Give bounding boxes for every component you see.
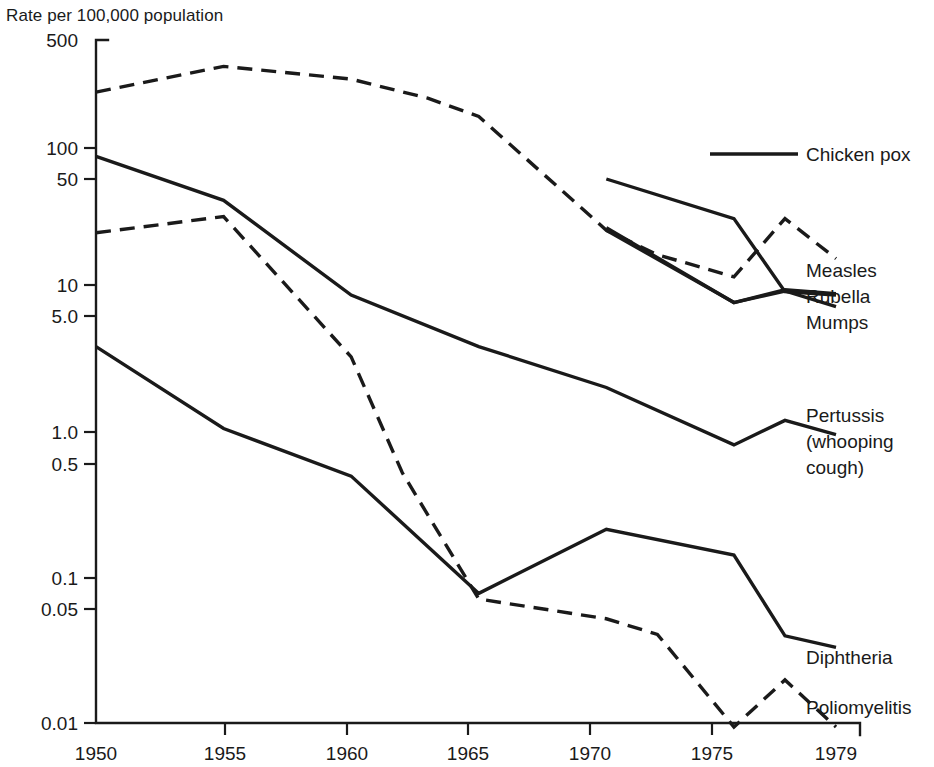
series-label-chicken-pox: Chicken pox (806, 144, 911, 165)
series-line-mumps (606, 230, 836, 306)
series-line-measles (96, 66, 836, 276)
axes-group (96, 40, 860, 735)
x-tick-label: 1979 (815, 743, 857, 764)
y-tick-label: 5.0 (52, 306, 78, 327)
x-tick-label: 1960 (326, 743, 368, 764)
y-tick-label: 0.1 (52, 568, 78, 589)
x-tick-label: 1970 (569, 743, 611, 764)
series-label-pertussis-line2: (whooping (806, 431, 894, 452)
series-line-pertussis-whooping-cough (96, 156, 836, 445)
series-line-poliomyelitis (96, 217, 836, 727)
y-tick-label: 1.0 (52, 422, 78, 443)
x-tick-label: 1965 (447, 743, 489, 764)
series-line-chicken-pox (606, 179, 836, 295)
series-label-pertussis-line3: cough) (806, 457, 864, 478)
series-label-diphtheria: Diphtheria (806, 647, 893, 668)
y-tick-marks (84, 148, 96, 723)
line-chart-canvas: 500 100 50 10 5.0 1.0 0.5 0.1 0.05 0.01 … (0, 0, 934, 767)
y-tick-label: 0.01 (41, 713, 78, 734)
y-tick-label: 100 (46, 138, 78, 159)
chart-figure: Rate per 100,000 population 500 100 50 1… (0, 0, 934, 767)
y-axis-labels: 500 100 50 10 5.0 1.0 0.5 0.1 0.05 0.01 (41, 30, 78, 734)
x-tick-label: 1955 (204, 743, 246, 764)
series-curves-group (96, 66, 836, 727)
y-tick-label: 500 (46, 30, 78, 51)
series-label-measles: Measles (806, 260, 877, 281)
series-label-mumps: Mumps (806, 312, 868, 333)
x-axis-labels: 1950 1955 1960 1965 1970 1975 1979 (75, 743, 857, 764)
y-tick-label: 50 (57, 169, 78, 190)
series-line-diphtheria (96, 347, 836, 648)
y-tick-label: 0.5 (52, 454, 78, 475)
series-label-poliomyelitis: Poliomyelitis (806, 697, 912, 718)
series-label-rubella: Rubella (806, 286, 871, 307)
series-labels-group: Chicken pox Measles Rubella Mumps Pertus… (806, 144, 912, 718)
x-tick-marks (225, 723, 712, 735)
x-tick-label: 1950 (75, 743, 117, 764)
axis-lines (96, 40, 860, 735)
x-tick-label: 1975 (691, 743, 733, 764)
series-label-pertussis-line1: Pertussis (806, 405, 884, 426)
y-tick-label: 0.05 (41, 599, 78, 620)
y-tick-label: 10 (57, 275, 78, 296)
series-line-rubella (606, 228, 836, 303)
